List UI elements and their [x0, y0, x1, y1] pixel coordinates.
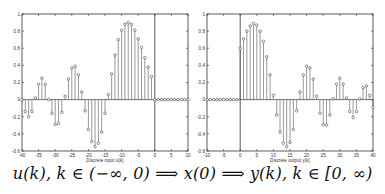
x-tick-label: -5 — [136, 153, 141, 158]
stem-marker — [54, 123, 57, 126]
stem-marker — [365, 85, 368, 88]
stem-marker — [157, 98, 160, 101]
x-axis-label: Discrete output y(k) — [270, 158, 310, 163]
stem-marker — [355, 110, 358, 113]
stem-marker — [44, 83, 47, 86]
stem-marker — [163, 98, 166, 101]
y-tick-label: -0.4 — [197, 132, 205, 137]
output-stem-plot: -0.6-0.4-0.200.20.40.60.81-10-5051015202… — [197, 12, 376, 163]
stem-marker — [64, 95, 67, 98]
y-tick-label: 0 — [17, 97, 20, 102]
y-tick-label: 0.4 — [199, 63, 206, 68]
stem-marker — [255, 24, 258, 27]
stem-marker — [177, 98, 180, 101]
stem-marker — [147, 66, 150, 69]
stem-marker — [295, 109, 298, 112]
stem-marker — [97, 142, 100, 145]
stem-marker — [358, 97, 361, 100]
stem-marker — [154, 98, 157, 101]
stem-marker — [57, 122, 60, 125]
stem-marker — [226, 98, 229, 101]
stem-marker — [335, 83, 338, 86]
stem-marker — [262, 40, 265, 43]
stem-marker — [315, 95, 318, 98]
stem-marker — [239, 47, 242, 50]
stem-marker — [27, 115, 30, 118]
stem-marker — [339, 77, 342, 80]
stem-marker — [302, 73, 305, 76]
stem-marker — [232, 98, 235, 101]
stem-marker — [61, 111, 64, 114]
x-tick-label: -25 — [68, 153, 75, 158]
stem-marker — [299, 91, 302, 94]
stem-marker — [206, 98, 209, 101]
stem-marker — [272, 94, 275, 97]
y-tick-label: -0.2 — [197, 115, 205, 120]
x-tick-label: 0 — [154, 153, 157, 158]
stem-marker — [183, 98, 186, 101]
stem-marker — [37, 83, 40, 86]
y-tick-label: 0.6 — [14, 46, 21, 51]
stem-marker — [372, 106, 375, 109]
y-tick-label: -0.4 — [12, 132, 20, 137]
x-tick-label: -40 — [19, 153, 26, 158]
stem-marker — [319, 112, 322, 115]
x-tick-label: 25 — [321, 153, 327, 158]
stem-marker — [114, 54, 117, 57]
stem-marker — [246, 30, 249, 33]
stem-marker — [107, 93, 110, 96]
stem-marker — [130, 23, 133, 26]
stem-marker — [187, 98, 190, 101]
stem-marker — [219, 98, 222, 101]
stem-marker — [269, 73, 272, 76]
y-tick-label: 0.2 — [199, 80, 206, 85]
stem-marker — [127, 21, 130, 24]
stem-marker — [332, 97, 335, 100]
stem-marker — [329, 114, 332, 117]
x-tick-label: 5 — [256, 153, 259, 158]
stem-marker — [124, 23, 127, 26]
stem-marker — [279, 131, 282, 134]
x-tick-label: 35 — [354, 153, 360, 158]
stem-marker — [312, 78, 315, 81]
y-tick-label: 0.2 — [14, 80, 21, 85]
stem-marker — [275, 114, 278, 117]
stem-marker — [134, 29, 137, 32]
stem-marker — [160, 98, 163, 101]
stem-marker — [368, 94, 371, 97]
stem-marker — [94, 145, 97, 148]
figure-caption: u(k), k ∈ (−∞, 0) ⟹ x(0) ⟹ y(k), k ∈ [0,… — [0, 164, 385, 183]
y-tick-label: 0.8 — [199, 29, 206, 34]
stem-marker — [209, 98, 212, 101]
stem-marker — [24, 110, 27, 113]
x-tick-label: -5 — [222, 153, 227, 158]
y-tick-label: 1 — [202, 12, 205, 17]
stem-marker — [137, 38, 140, 41]
stem-marker — [305, 65, 308, 68]
stem-marker — [150, 75, 153, 78]
stem-marker — [292, 128, 295, 131]
x-axis-label: Discrete input u(k) — [86, 158, 124, 163]
stem-marker — [84, 109, 87, 112]
stem-marker — [167, 98, 170, 101]
axes-box — [22, 14, 188, 151]
stem-marker — [31, 110, 34, 113]
stem-marker — [212, 98, 215, 101]
stem-marker — [120, 29, 123, 32]
y-tick-label: 1 — [17, 12, 20, 17]
stem-marker — [222, 98, 225, 101]
figure: -0.6-0.4-0.200.20.40.60.81-40-35-30-25-2… — [0, 0, 385, 164]
stem-marker — [117, 38, 120, 41]
stem-marker — [104, 112, 107, 115]
stem-marker — [285, 145, 288, 148]
stem-marker — [90, 140, 93, 143]
stem-marker — [259, 30, 262, 33]
stem-marker — [80, 91, 83, 94]
stem-marker — [229, 98, 232, 101]
stem-marker — [87, 128, 90, 131]
stem-marker — [47, 98, 50, 101]
x-tick-label: -35 — [35, 153, 42, 158]
stem-marker — [322, 123, 325, 126]
stem-marker — [352, 116, 355, 119]
stem-marker — [265, 56, 268, 59]
